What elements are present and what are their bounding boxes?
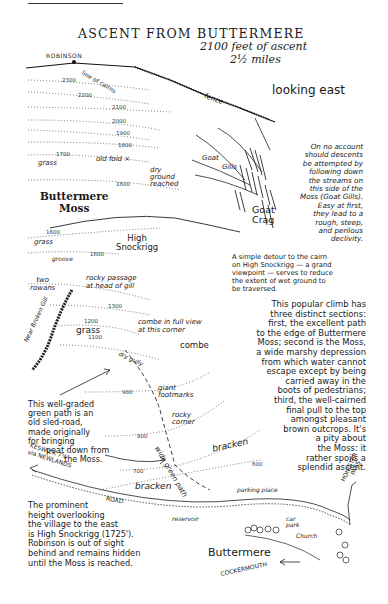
goat-crag-label: Goat Crag <box>252 205 275 225</box>
orientation-label: looking east <box>272 83 345 97</box>
contour-label: 2100 <box>112 104 126 110</box>
sled-road-note: This well-graded green path is an old sl… <box>28 400 109 464</box>
contour-label: 2200 <box>78 92 92 98</box>
contour-label: 1600 <box>116 181 130 187</box>
contour-label: 1200 <box>84 318 98 324</box>
groove-label: groove <box>52 255 73 262</box>
climb-sections-note: This popular climb has three distinct se… <box>256 300 366 473</box>
rocky-corner-label: rocky corner <box>172 412 195 426</box>
old-fold-label: old fold × <box>96 155 130 163</box>
grass-label: grass <box>34 238 53 246</box>
contour-label: 1300 <box>108 303 122 309</box>
contour-label: 900 <box>122 389 133 395</box>
goat-gills-label: Goat Gills <box>202 154 237 172</box>
ascent-height: 2100 feet of ascent <box>200 40 307 53</box>
church-label: Church <box>296 532 317 539</box>
combe-label: combe <box>180 340 209 350</box>
contour-label: 2000 <box>112 118 126 124</box>
rocky-passage-label: rocky passage at head of gill <box>86 274 137 290</box>
contour-label: 700 <box>133 468 144 474</box>
high-snockrigg-label: High Snockrigg <box>116 234 158 252</box>
giant-footmarks-label: giant footmarks <box>158 385 193 399</box>
contour-label: 1700 <box>56 151 70 157</box>
car-park-label: car park <box>286 516 299 528</box>
two-rowans-label: two rowans <box>30 276 55 292</box>
bracken-label: bracken <box>135 481 171 491</box>
reservoir-label: reservoir <box>172 515 199 522</box>
near-broken-gill <box>32 290 72 370</box>
prominent-height-note: The prominent height overlooking the vil… <box>28 501 140 568</box>
contour-label: 1600 <box>46 229 60 235</box>
contour-label: 1600 <box>90 251 104 257</box>
contour-label: 800 <box>137 433 148 439</box>
summit-label: ROBINSON <box>46 52 82 59</box>
contour-label: 1800 <box>118 142 132 148</box>
combe-view-label: combe in full view at this corner <box>138 318 202 334</box>
summit-cairn <box>72 60 76 64</box>
grass-label: grass <box>76 325 100 335</box>
goat-gills-warning-note: On no account should descents be attempt… <box>300 143 363 244</box>
detour-note: A simple detour to the cairn on High Sno… <box>232 253 333 293</box>
parking-place-label: parking place <box>237 486 278 493</box>
buttermere-village-label: Buttermere <box>208 546 271 559</box>
map-title: ASCENT FROM BUTTERMERE <box>78 26 305 41</box>
ascent-distance: 2½ miles <box>230 53 281 66</box>
contour-label: 2300 <box>62 77 76 83</box>
dry-ground-label: dry ground reached <box>150 167 179 188</box>
snockrigg-ridge <box>50 216 240 232</box>
skyline-ridge <box>26 63 275 122</box>
grass-label: grass <box>38 159 57 167</box>
contour-label: 1900 <box>116 130 130 136</box>
buttermere-moss-label: Buttermere Moss <box>40 190 108 214</box>
